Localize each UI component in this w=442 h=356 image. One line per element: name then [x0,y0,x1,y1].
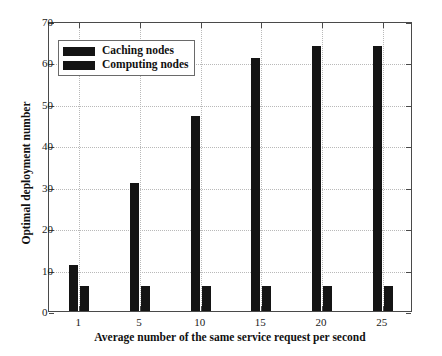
bar-caching-nodes-20 [312,46,321,311]
legend: Caching nodes Computing nodes [58,40,195,76]
bar-computing-nodes-1 [80,286,89,311]
y-tick-mark [406,272,411,273]
x-tick-mark [79,23,80,28]
y-tick-mark [406,64,411,65]
legend-label: Computing nodes [102,59,189,71]
legend-item-caching-nodes: Caching nodes [63,44,189,58]
x-tick-label: 10 [194,316,205,328]
legend-swatch-icon [63,47,95,56]
x-tick-mark [261,23,262,28]
x-tick-mark [322,23,323,28]
vertical-gridline [322,23,323,311]
y-tick-mark [406,23,411,24]
horizontal-gridline [49,189,411,190]
bar-caching-nodes-25 [373,46,382,311]
bar-caching-nodes-1 [69,265,78,311]
y-tick-mark [406,230,411,231]
y-tick-mark [49,313,54,314]
x-tick-label: 25 [376,316,387,328]
bar-caching-nodes-15 [251,58,260,311]
x-tick-label: 1 [76,316,82,328]
bar-computing-nodes-25 [384,286,393,311]
y-tick-mark [406,106,411,107]
vertical-gridline [383,23,384,311]
legend-label: Caching nodes [102,45,174,57]
horizontal-gridline [49,106,411,107]
x-tick-label: 5 [136,316,142,328]
bar-caching-nodes-5 [130,183,139,311]
x-tick-label: 20 [316,316,327,328]
legend-item-computing-nodes: Computing nodes [63,58,189,72]
horizontal-gridline [49,230,411,231]
y-tick-mark [406,313,411,314]
x-tick-mark [140,23,141,28]
horizontal-gridline [49,147,411,148]
y-tick-mark [406,147,411,148]
y-axis-title: Optimal deployment number [20,73,32,273]
x-tick-mark [201,23,202,28]
bar-chart-figure: 010203040506070 1510152025 Optimal deplo… [0,0,442,356]
y-tick-mark [406,189,411,190]
bar-computing-nodes-10 [202,286,211,311]
horizontal-gridline [49,272,411,273]
bar-computing-nodes-5 [141,286,150,311]
vertical-gridline [261,23,262,311]
x-tick-mark [383,23,384,28]
bar-computing-nodes-15 [262,286,271,311]
bar-caching-nodes-10 [191,116,200,311]
vertical-gridline [201,23,202,311]
bar-computing-nodes-20 [323,286,332,311]
x-tick-label: 15 [255,316,266,328]
x-axis-title: Average number of the same service reque… [48,331,412,343]
legend-swatch-icon [63,61,95,70]
